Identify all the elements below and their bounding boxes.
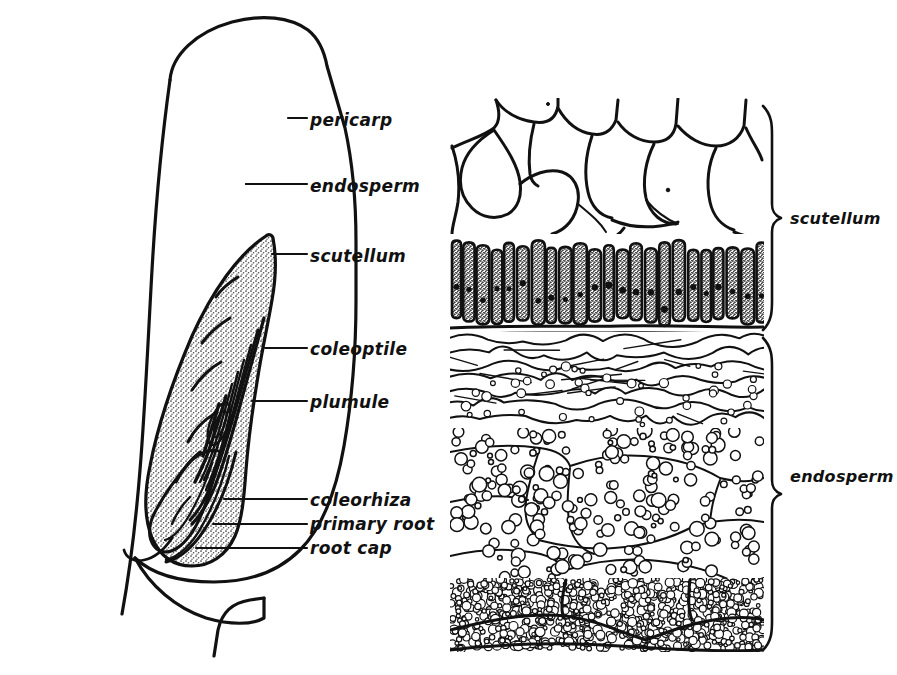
starch-grain bbox=[530, 583, 534, 587]
epithelial-cell bbox=[547, 248, 556, 323]
starch-grain bbox=[526, 602, 530, 606]
starch-grain bbox=[736, 581, 739, 584]
bracket-endosperm bbox=[763, 338, 781, 650]
starch-grain bbox=[611, 609, 619, 617]
starch-granule bbox=[728, 409, 734, 415]
starch-grain bbox=[709, 446, 716, 453]
starch-grain bbox=[500, 630, 507, 637]
starch-grain bbox=[606, 565, 616, 575]
cell-nucleus bbox=[691, 284, 696, 289]
starch-grain bbox=[697, 598, 701, 602]
starch-grain bbox=[704, 622, 709, 627]
starch-grain bbox=[652, 473, 657, 478]
parenchyma-wall bbox=[678, 100, 746, 146]
starch-grain bbox=[665, 578, 674, 587]
cell-nucleus bbox=[481, 298, 486, 303]
starch-grain bbox=[562, 447, 569, 454]
label-coleoptile: coleoptile bbox=[310, 339, 407, 359]
starch-grain bbox=[647, 630, 654, 637]
starch-grain bbox=[594, 543, 607, 556]
starch-grain bbox=[453, 427, 464, 438]
starch-grain bbox=[755, 437, 763, 445]
starch-grain bbox=[689, 636, 697, 644]
starch-granule bbox=[744, 401, 752, 409]
parenchyma-wall bbox=[460, 130, 520, 217]
starch-granule bbox=[683, 395, 689, 401]
parenchyma-wall bbox=[496, 96, 558, 122]
starch-grain bbox=[746, 599, 751, 604]
starch-grain bbox=[575, 518, 587, 530]
starch-grain bbox=[458, 587, 462, 591]
starch-grain bbox=[450, 518, 464, 532]
starch-grain bbox=[600, 593, 604, 597]
cell-nucleus bbox=[454, 284, 459, 289]
starch-grain bbox=[605, 491, 617, 503]
epithelial-cell bbox=[532, 240, 545, 324]
starch-grain bbox=[707, 433, 718, 444]
epithelial-cell bbox=[617, 250, 629, 319]
label-primary-root: primary root bbox=[309, 514, 435, 534]
starch-grain bbox=[662, 621, 665, 624]
starch-grain bbox=[456, 609, 461, 614]
starch-grain bbox=[670, 619, 677, 626]
starch-grain bbox=[532, 633, 536, 637]
whole-grain-section: pericarpendospermscutellumcoleoptileplum… bbox=[122, 18, 435, 656]
grain-base-stalk bbox=[214, 598, 264, 656]
starch-grain bbox=[524, 468, 534, 478]
starch-grain bbox=[484, 639, 489, 644]
starch-grain bbox=[660, 598, 663, 601]
starch-grain bbox=[584, 581, 593, 590]
starch-grain bbox=[573, 468, 583, 478]
cell-nucleus bbox=[606, 282, 612, 288]
starch-grain bbox=[508, 636, 512, 640]
starch-granule bbox=[627, 379, 636, 388]
starch-grain bbox=[559, 432, 566, 439]
parenchyma-wall bbox=[558, 100, 618, 134]
starch-grain bbox=[654, 583, 662, 591]
starch-grain bbox=[481, 581, 487, 587]
starch-grain bbox=[455, 453, 467, 465]
starch-grain bbox=[702, 446, 709, 453]
starch-grain bbox=[536, 580, 541, 585]
starch-grain bbox=[511, 446, 519, 454]
starch-granule bbox=[580, 368, 585, 373]
starch-grain bbox=[731, 532, 741, 542]
epithelial-cell bbox=[757, 243, 767, 323]
parenchyma-wall bbox=[618, 98, 678, 142]
starch-grain bbox=[523, 587, 527, 591]
starch-grain bbox=[539, 618, 546, 625]
starch-granule bbox=[683, 402, 691, 410]
starch-grain bbox=[710, 629, 715, 634]
starch-grain bbox=[532, 609, 537, 614]
starch-grain bbox=[468, 581, 474, 587]
epithelium-base-line-2 bbox=[450, 332, 764, 334]
starch-grain bbox=[704, 642, 711, 649]
starch-grain bbox=[546, 606, 552, 612]
starch-granule bbox=[482, 392, 492, 402]
scutellar-epithelium-zone bbox=[450, 236, 766, 334]
starch-grain bbox=[578, 498, 583, 503]
tissue-detail-section bbox=[440, 96, 817, 653]
starch-grain bbox=[660, 610, 668, 618]
epithelial-cell bbox=[630, 243, 642, 320]
epithelial-cell bbox=[645, 248, 657, 322]
parenchyma-wall bbox=[612, 220, 678, 227]
starch-grain bbox=[588, 613, 595, 620]
starch-grain bbox=[753, 608, 761, 616]
starch-granule bbox=[517, 389, 526, 398]
starch-grain bbox=[666, 500, 676, 510]
starch-grain bbox=[625, 546, 633, 554]
starch-grain bbox=[742, 621, 749, 628]
starch-grain bbox=[647, 535, 655, 543]
starch-grain bbox=[712, 640, 716, 644]
starch-grain bbox=[651, 523, 655, 527]
starch-grain bbox=[577, 579, 581, 583]
starch-grain bbox=[489, 635, 494, 640]
starch-grain bbox=[690, 522, 705, 537]
starch-grain bbox=[621, 567, 627, 573]
starch-grain bbox=[495, 450, 506, 461]
starch-grain bbox=[603, 430, 611, 438]
starch-grain bbox=[634, 490, 646, 502]
starch-grain bbox=[553, 583, 560, 590]
starch-granule bbox=[572, 366, 577, 371]
